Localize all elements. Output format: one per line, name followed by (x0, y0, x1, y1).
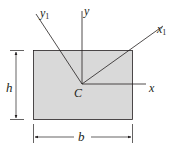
height-label: h (6, 80, 13, 95)
x-axis-label: x (148, 81, 155, 95)
centroid-label: C (74, 86, 83, 100)
x1-axis-label: x1 (156, 22, 166, 37)
width-label: b (78, 129, 85, 144)
y1-axis-label: y1 (39, 6, 49, 21)
cross-section-rectangle (34, 51, 133, 120)
rectangle-cross-section-diagram: y1 y x1 x C h b (0, 0, 172, 152)
y-axis-label: y (83, 4, 90, 18)
